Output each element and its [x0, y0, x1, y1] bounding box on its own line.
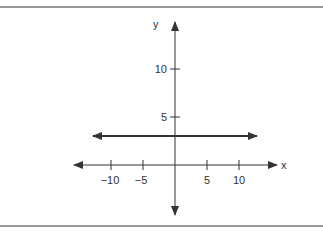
x-axis-label: x: [281, 159, 287, 171]
x-tick-label-neg10: −10: [101, 174, 120, 186]
x-tick-label-neg5: −5: [135, 174, 148, 186]
coordinate-plane-figure: x y −10 −5 5 10 10 5: [0, 0, 323, 233]
x-axis: x: [74, 159, 287, 171]
x-tick-label-5: 5: [204, 174, 210, 186]
y-tick-label-5: 5: [161, 111, 167, 123]
x-tick-label-10: 10: [233, 174, 245, 186]
y-axis-label: y: [153, 18, 159, 30]
x-ticks: −10 −5 5 10: [101, 160, 245, 186]
y-tick-label-10: 10: [155, 63, 167, 75]
y-ticks: 10 5: [155, 63, 180, 123]
